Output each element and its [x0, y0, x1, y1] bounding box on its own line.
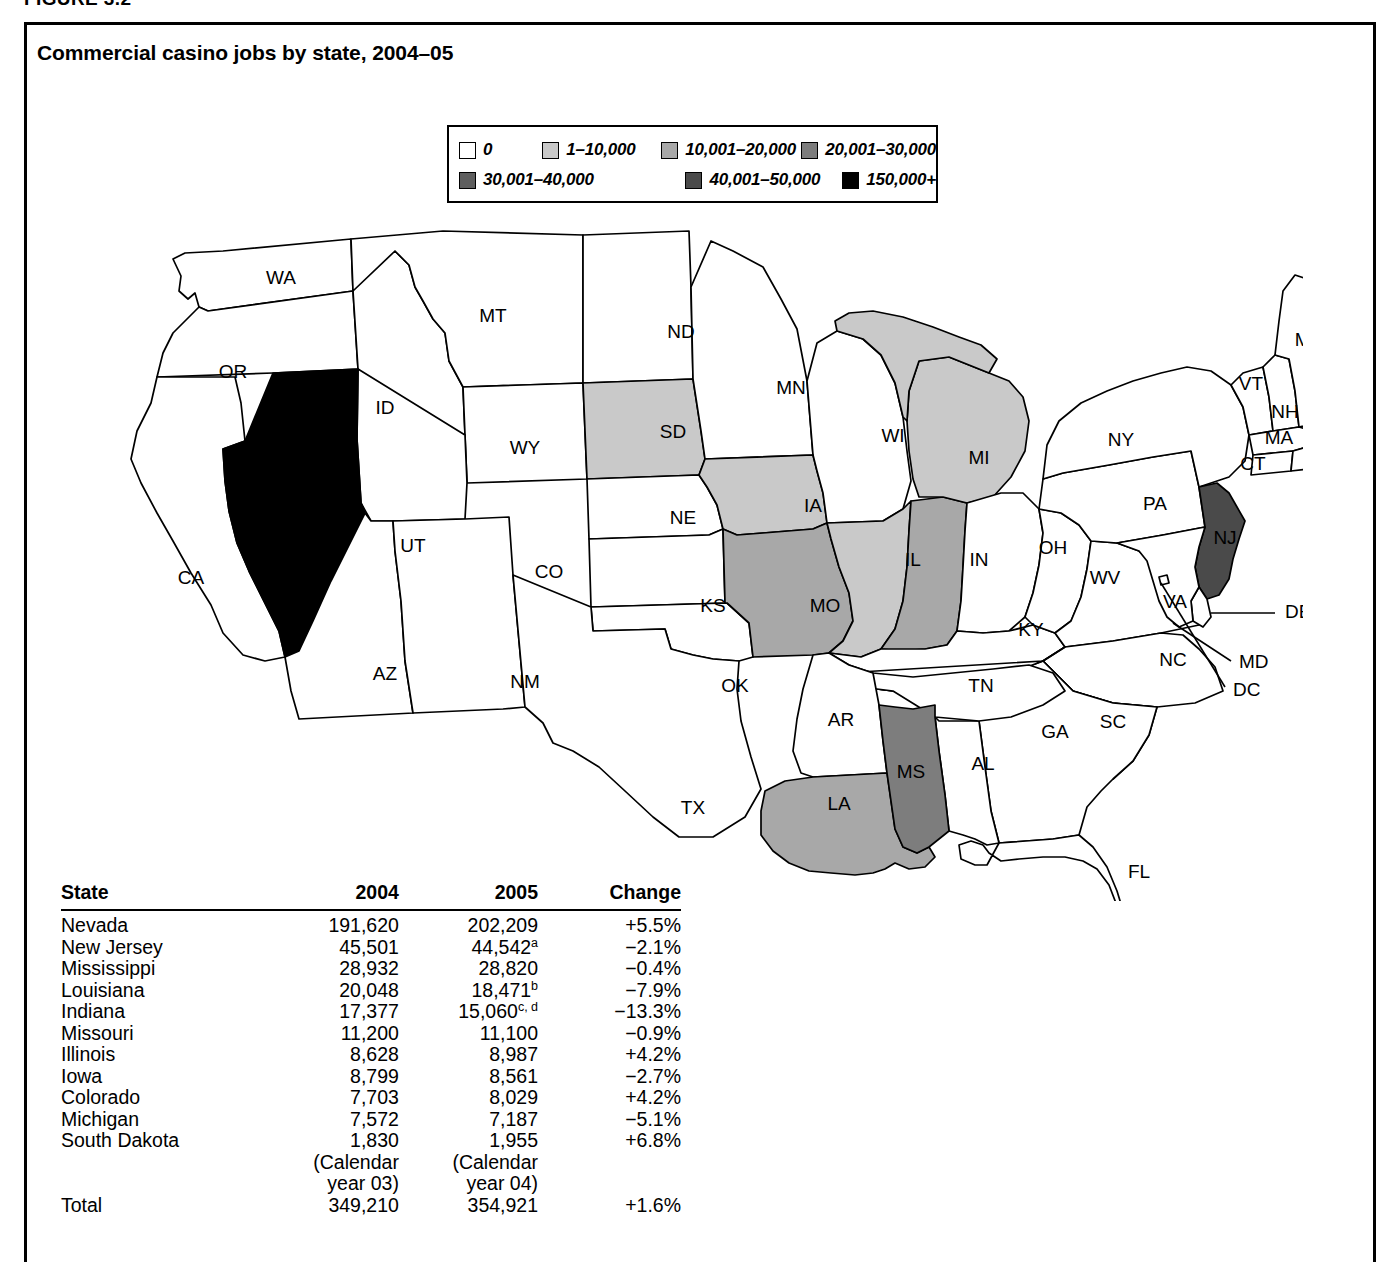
map-label-NH: NH: [1271, 401, 1298, 422]
state-MI[interactable]: [907, 357, 1029, 503]
figure-title: Commercial casino jobs by state, 2004–05: [37, 41, 453, 65]
map-label-AZ: AZ: [373, 663, 398, 684]
map-label-ME: ME: [1295, 329, 1303, 350]
legend-label-0: 0: [483, 140, 492, 160]
cell-state: Illinois: [61, 1044, 265, 1066]
legend-swatch-4: [459, 172, 476, 189]
column-header-state: State: [61, 881, 265, 910]
state-MN[interactable]: [691, 241, 813, 459]
cell-state: Colorado: [61, 1087, 265, 1109]
legend-swatch-6: [842, 172, 859, 189]
table-row: Illinois 8,628 8,987 +4.2%: [61, 1044, 681, 1066]
table-header-row: State 2004 2005 Change: [61, 881, 681, 910]
legend-swatch-1: [542, 142, 559, 159]
figure-number: FIGURE 3.2: [24, 0, 131, 10]
state-RI[interactable]: [1291, 447, 1303, 471]
legend-swatch-5: [685, 172, 702, 189]
footnote-marker: a: [531, 935, 538, 949]
cell-change: −2.1%: [542, 937, 681, 959]
state-ND[interactable]: [583, 231, 693, 383]
map-label-OK: OK: [721, 675, 749, 696]
map-label-DE: DE: [1285, 601, 1303, 622]
cell-2004: 7,703: [265, 1087, 399, 1109]
legend-label-3: 20,001–30,000: [825, 140, 936, 160]
state-WY[interactable]: [463, 383, 587, 483]
cell-change: −0.9%: [542, 1023, 681, 1045]
map-label-SC: SC: [1100, 711, 1126, 732]
map-legend: 0 1–10,000 10,001–20,000 20,001–30,000 3…: [447, 125, 938, 203]
cell-change: −13.3%: [542, 1001, 681, 1023]
map-label-ID: ID: [376, 397, 395, 418]
map-label-NY: NY: [1108, 429, 1135, 450]
state-OR[interactable]: [157, 291, 358, 377]
legend-swatch-2: [661, 142, 678, 159]
footnote-marker: b: [531, 978, 538, 992]
cell-2005: 202,209: [399, 910, 542, 937]
state-SD[interactable]: [583, 379, 705, 479]
map-label-FL: FL: [1128, 861, 1150, 882]
cell-2005: 15,060c, d: [399, 1001, 542, 1023]
column-header-2004: 2004: [265, 881, 399, 910]
cell-2004: 20,048: [265, 980, 399, 1002]
map-label-KY: KY: [1018, 619, 1044, 640]
casino-jobs-table: State 2004 2005 Change Nevada 191,620 20…: [61, 881, 681, 1216]
cell-state: Missouri: [61, 1023, 265, 1045]
map-label-KS: KS: [700, 595, 725, 616]
cell-change-empty: [542, 1173, 681, 1195]
map-label-LA: LA: [827, 793, 851, 814]
legend-row-1: 0 1–10,000 10,001–20,000 20,001–30,000: [459, 135, 936, 165]
cell-note-2005: (Calendar: [399, 1152, 542, 1174]
legend-swatch-0: [459, 142, 476, 159]
cell-state-empty: [61, 1152, 265, 1174]
map-label-MT: MT: [479, 305, 507, 326]
cell-2005: 11,100: [399, 1023, 542, 1045]
map-label-CO: CO: [535, 561, 564, 582]
table-row: Colorado 7,703 8,029 +4.2%: [61, 1087, 681, 1109]
footnote-marker: c, d: [518, 1000, 538, 1014]
map-label-NE: NE: [670, 507, 696, 528]
cell-note-2004: year 03): [265, 1173, 399, 1195]
legend-label-2: 10,001–20,000: [685, 140, 796, 160]
table-row: Iowa 8,799 8,561 −2.7%: [61, 1066, 681, 1088]
table-note-row: year 03) year 04): [61, 1173, 681, 1195]
cell-2005: 8,987: [399, 1044, 542, 1066]
cell-state: Indiana: [61, 1001, 265, 1023]
cell-2005: 8,561: [399, 1066, 542, 1088]
cell-2004: 8,799: [265, 1066, 399, 1088]
cell-2005: 28,820: [399, 958, 542, 980]
table-total-row: Total 349,210 354,921 +1.6%: [61, 1195, 681, 1217]
map-label-MN: MN: [776, 377, 806, 398]
figure-frame: Commercial casino jobs by state, 2004–05…: [24, 22, 1376, 1262]
state-NE[interactable]: [587, 475, 723, 539]
map-label-VA: VA: [1163, 591, 1187, 612]
map-label-SD: SD: [660, 421, 686, 442]
cell-total-change: +1.6%: [542, 1195, 681, 1217]
table-body: Nevada 191,620 202,209 +5.5% New Jersey …: [61, 910, 681, 1216]
map-label-AR: AR: [828, 709, 854, 730]
map-label-MD: MD: [1239, 651, 1269, 672]
map-label-GA: GA: [1041, 721, 1069, 742]
legend-label-4: 30,001–40,000: [483, 170, 594, 190]
table-row: Indiana 17,377 15,060c, d −13.3%: [61, 1001, 681, 1023]
cell-note-2005: year 04): [399, 1173, 542, 1195]
cell-change: +4.2%: [542, 1087, 681, 1109]
table-row: Michigan 7,572 7,187 −5.1%: [61, 1109, 681, 1131]
cell-total-2005: 354,921: [399, 1195, 542, 1217]
map-label-DC: DC: [1233, 679, 1260, 700]
legend-item-3: 20,001–30,000: [801, 140, 936, 160]
map-label-MO: MO: [810, 595, 841, 616]
state-FL[interactable]: [959, 835, 1129, 901]
map-label-NJ: NJ: [1213, 527, 1236, 548]
cell-state: Louisiana: [61, 980, 265, 1002]
cell-2004: 1,830: [265, 1130, 399, 1152]
cell-change: +4.2%: [542, 1044, 681, 1066]
map-label-IA: IA: [804, 495, 822, 516]
cell-change: −7.9%: [542, 980, 681, 1002]
map-label-AL: AL: [971, 753, 994, 774]
cell-state: Mississippi: [61, 958, 265, 980]
cell-2005: 8,029: [399, 1087, 542, 1109]
table-note-row: (Calendar (Calendar: [61, 1152, 681, 1174]
map-label-ND: ND: [667, 321, 694, 342]
map-label-OH: OH: [1039, 537, 1068, 558]
cell-state: New Jersey: [61, 937, 265, 959]
